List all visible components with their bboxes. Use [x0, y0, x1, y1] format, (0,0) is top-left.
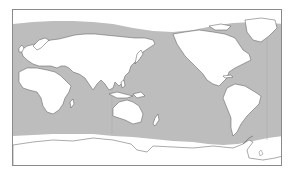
world-map-svg: [13, 10, 282, 166]
world-map: [12, 9, 282, 166]
